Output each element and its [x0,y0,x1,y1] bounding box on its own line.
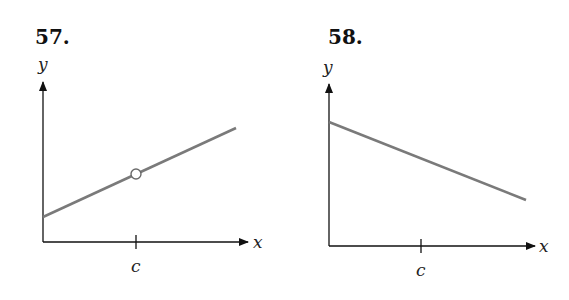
tick-label-c-57: c [131,256,141,276]
tick-label-c-58: c [416,260,426,280]
problem-number-58: 58. [328,25,363,49]
x-axis-label-57: x [253,232,263,252]
figure-canvas: 57. y x c 58. y x c [0,0,569,300]
y-axis-label-58: y [322,57,333,77]
function-line-58 [329,122,526,200]
graph-57: 57. y x c [35,25,263,276]
x-axis-label-58: x [539,236,549,256]
open-circle-hole [131,169,141,179]
graph-58: 58. y x c [322,25,549,280]
problem-number-57: 57. [35,25,70,49]
y-axis-label-57: y [37,54,48,74]
